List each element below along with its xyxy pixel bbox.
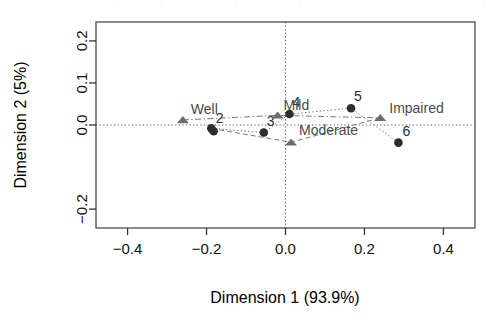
x-tick-label: 0.2 xyxy=(354,240,375,257)
observation-label-3: 3 xyxy=(267,113,275,129)
category-label-moderate: Moderate xyxy=(299,122,358,138)
y-axis-ticks: 0.20.10.0−0.2 xyxy=(73,30,96,223)
x-axis-title: Dimension 1 (93.9%) xyxy=(210,289,359,306)
reference-lines xyxy=(96,22,475,228)
x-axis-ticks: −0.4−0.20.00.20.4 xyxy=(113,228,454,257)
x-tick-label: −0.4 xyxy=(113,240,143,257)
x-tick-label: 0.0 xyxy=(275,240,296,257)
observation-point-3 xyxy=(259,128,268,137)
observation-point-5 xyxy=(347,104,356,113)
x-tick-label: −0.2 xyxy=(192,240,222,257)
observation-label-5: 5 xyxy=(354,88,362,104)
y-tick-label: 0.1 xyxy=(73,73,90,94)
data-markers: 23456WellMildModerateImpaired xyxy=(177,88,444,147)
plot-frame xyxy=(96,22,475,228)
y-axis-title: Dimension 2 (5%) xyxy=(12,61,29,188)
category-label-impaired: Impaired xyxy=(389,100,443,116)
category-label-well: Well xyxy=(191,101,218,117)
y-tick-label: −0.2 xyxy=(73,194,90,224)
observation-point-2 xyxy=(209,127,218,136)
plot-canvas: −0.4−0.20.00.20.4 0.20.10.0−0.2 23456Wel… xyxy=(0,0,494,324)
y-tick-label: 0.2 xyxy=(73,30,90,51)
observation-point-6 xyxy=(394,138,403,147)
category-label-mild: Mild xyxy=(284,97,310,113)
y-tick-label: 0.0 xyxy=(73,115,90,136)
x-tick-label: 0.4 xyxy=(433,240,454,257)
observation-label-6: 6 xyxy=(402,123,410,139)
correspondence-analysis-plot: −0.4−0.20.00.20.4 0.20.10.0−0.2 23456Wel… xyxy=(0,0,494,324)
